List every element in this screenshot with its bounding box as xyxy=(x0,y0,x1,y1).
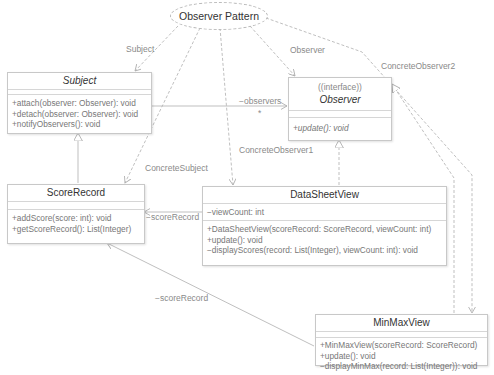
class-score-record-name: ScoreRecord xyxy=(8,185,144,202)
class-data-sheet-view[interactable]: DataSheetView −viewCount: int +DataSheet… xyxy=(202,186,447,266)
class-score-record-operations: +addScore(score: int): void +getScoreRec… xyxy=(8,210,144,237)
operation: −displayScores(record: List(Integer), vi… xyxy=(207,245,442,256)
role-link-concrete-observer1 xyxy=(220,28,233,185)
operation: +getScoreRecord(): List(Integer) xyxy=(12,224,140,235)
operation: +notifyObservers(): void xyxy=(12,119,147,130)
class-min-max-view-name: MinMaxView xyxy=(316,315,487,332)
label-concrete-subject: ConcreteSubject xyxy=(145,163,208,173)
operation: +addScore(score: int): void xyxy=(12,213,140,224)
operation: +update(): void xyxy=(293,123,387,134)
operation: +update(): void xyxy=(207,235,442,246)
class-observer-attributes xyxy=(289,111,391,118)
class-data-sheet-view-operations: +DataSheetView(scoreRecord: ScoreRecord,… xyxy=(203,221,446,259)
class-score-record[interactable]: ScoreRecord +addScore(score: int): void … xyxy=(7,184,145,244)
label-score-record-association-1: −scoreRecord xyxy=(146,212,199,222)
class-observer-name: Observer xyxy=(289,93,391,107)
class-data-sheet-view-attributes: −viewCount: int xyxy=(203,204,446,221)
class-subject[interactable]: Subject +attach(observer: Observer): voi… xyxy=(7,72,152,134)
attribute: −viewCount: int xyxy=(207,207,442,218)
operation: +attach(observer: Observer): void xyxy=(12,98,147,109)
class-subject-name: Subject xyxy=(8,73,151,90)
role-link-observer xyxy=(250,26,295,76)
class-min-max-view-operations: +MinMaxView(scoreRecord: ScoreRecord) +u… xyxy=(316,338,487,375)
class-score-record-attributes xyxy=(8,202,144,210)
collaboration-title: Observer Pattern xyxy=(179,10,259,22)
class-data-sheet-view-name: DataSheetView xyxy=(203,187,446,204)
collaboration-observer-pattern[interactable]: Observer Pattern xyxy=(170,2,268,30)
class-min-max-view[interactable]: MinMaxView +MinMaxView(scoreRecord: Scor… xyxy=(315,314,488,366)
class-subject-operations: +attach(observer: Observer): void +detac… xyxy=(8,95,151,133)
label-score-record-association-2: −scoreRecord xyxy=(155,293,208,303)
label-observers-association: −observers xyxy=(239,96,281,106)
operation: +MinMaxView(scoreRecord: ScoreRecord) xyxy=(320,340,483,351)
class-observer-header: ((interface)) Observer xyxy=(289,78,391,111)
label-observer-role: Observer xyxy=(290,45,325,55)
class-observer[interactable]: ((interface)) Observer +update(): void xyxy=(288,77,392,141)
class-observer-operations: +update(): void xyxy=(289,118,391,137)
operation: +detach(observer: Observer): void xyxy=(12,109,147,120)
label-concrete-observer1: ConcreteObserver1 xyxy=(239,145,313,155)
label-subject-role: Subject xyxy=(126,44,154,54)
operation: +DataSheetView(scoreRecord: ScoreRecord,… xyxy=(207,224,442,235)
label-multiplicity: * xyxy=(258,108,261,118)
operation: −displayMinMax(record: List(Integer)): v… xyxy=(320,361,483,372)
label-concrete-observer2: ConcreteObserver2 xyxy=(381,61,455,71)
operation: +update(): void xyxy=(320,351,483,362)
stereotype-label: ((interface)) xyxy=(289,81,391,93)
